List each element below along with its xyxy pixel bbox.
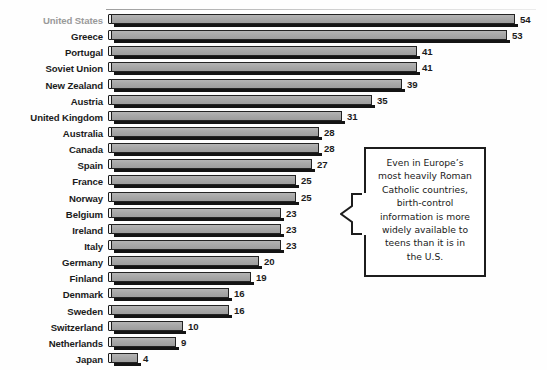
bar-value-label: 28 xyxy=(324,143,335,156)
bar-value-label: 23 xyxy=(286,240,297,253)
bar-body xyxy=(111,111,342,121)
top-edge-artifact xyxy=(106,9,536,10)
bar-shadow xyxy=(114,266,262,269)
bar-value-label: 16 xyxy=(234,288,245,301)
bar-body xyxy=(111,95,372,105)
bar-end-cap xyxy=(108,14,112,24)
bar-shadow xyxy=(114,234,284,237)
category-label: Norway xyxy=(0,192,103,205)
bar-end-cap xyxy=(108,224,112,234)
category-label: Switzerland xyxy=(0,321,103,334)
bar-shadow xyxy=(114,105,375,108)
category-label: Ireland xyxy=(0,224,103,237)
bar-value-label: 20 xyxy=(264,256,275,269)
bar-end-cap xyxy=(108,272,112,282)
bar-body xyxy=(111,305,229,315)
bar-end-cap xyxy=(108,337,112,347)
bar-value-label: 10 xyxy=(188,321,199,334)
bar-value-label: 41 xyxy=(422,62,433,75)
category-label: Germany xyxy=(0,256,103,269)
category-label: Canada xyxy=(0,143,103,156)
bar-end-cap xyxy=(108,30,112,40)
callout-line: birth-control xyxy=(372,196,478,209)
callout-line: Catholic countries, xyxy=(372,183,478,196)
bar xyxy=(108,14,517,27)
bar-value-label: 9 xyxy=(181,337,186,350)
category-label: United Kingdom xyxy=(0,111,103,124)
bar-end-cap xyxy=(108,288,112,298)
bar-value-label: 53 xyxy=(512,30,523,43)
bar xyxy=(108,240,283,253)
bar xyxy=(108,143,321,156)
bar xyxy=(108,321,185,334)
bar-body xyxy=(111,337,176,347)
bar-body xyxy=(111,79,402,89)
bar xyxy=(108,288,231,301)
bar-end-cap xyxy=(108,127,112,137)
bar-value-label: 19 xyxy=(256,272,267,285)
bar-body xyxy=(111,192,296,202)
bar-shadow xyxy=(114,169,315,172)
bar-value-label: 41 xyxy=(422,46,433,59)
category-label: Italy xyxy=(0,240,103,253)
bar-shadow xyxy=(114,298,232,301)
bar-value-label: 31 xyxy=(347,111,358,124)
bar-shadow xyxy=(114,137,322,140)
callout-line: Even in Europe’s xyxy=(372,156,478,169)
bar-end-cap xyxy=(108,256,112,266)
bar xyxy=(108,30,509,43)
bar-shadow xyxy=(114,250,284,253)
category-label: Spain xyxy=(0,159,103,172)
bar-body xyxy=(111,208,281,218)
bar-shadow xyxy=(114,202,299,205)
bar-body xyxy=(111,30,507,40)
bar-shadow xyxy=(114,72,420,75)
bar-body xyxy=(111,321,183,331)
bar-end-cap xyxy=(108,240,112,250)
bar xyxy=(108,111,344,124)
callout-line: most heavily Roman xyxy=(372,169,478,182)
bar-body xyxy=(111,159,312,169)
bar-chart: United States54Greece53Portugal41Soviet … xyxy=(0,0,547,370)
bar-end-cap xyxy=(108,175,112,185)
bar xyxy=(108,272,253,285)
category-label: Sweden xyxy=(0,305,103,318)
category-label: Greece xyxy=(0,30,103,43)
bar-value-label: 35 xyxy=(377,95,388,108)
bar-shadow xyxy=(114,347,179,350)
bar xyxy=(108,127,321,140)
bar-value-label: 27 xyxy=(317,159,328,172)
bar-value-label: 16 xyxy=(234,305,245,318)
bar-value-label: 4 xyxy=(143,353,148,366)
bar-body xyxy=(111,143,319,153)
category-label: Netherlands xyxy=(0,337,103,350)
bar xyxy=(108,353,140,366)
bar-shadow xyxy=(114,121,345,124)
bar xyxy=(108,95,374,108)
bar-shadow xyxy=(114,56,420,59)
bar-shadow xyxy=(114,40,510,43)
category-label: Denmark xyxy=(0,288,103,301)
category-label: France xyxy=(0,175,103,188)
bar-end-cap xyxy=(108,321,112,331)
bar xyxy=(108,79,404,92)
bar-end-cap xyxy=(108,192,112,202)
category-label: Australia xyxy=(0,127,103,140)
bar xyxy=(108,305,231,318)
bar-body xyxy=(111,14,515,24)
bar-end-cap xyxy=(108,305,112,315)
callout-line: teens than it is in xyxy=(372,236,478,249)
category-label: Japan xyxy=(0,353,103,366)
bar-body xyxy=(111,46,417,56)
bar xyxy=(108,159,314,172)
bar xyxy=(108,175,298,188)
bar xyxy=(108,337,178,350)
bar-value-label: 39 xyxy=(407,79,418,92)
bar xyxy=(108,208,283,221)
bar-shadow xyxy=(114,363,141,366)
bar-end-cap xyxy=(108,62,112,72)
bar-end-cap xyxy=(108,159,112,169)
bar-value-label: 25 xyxy=(301,175,312,188)
bar-shadow xyxy=(114,331,186,334)
bar-value-label: 23 xyxy=(286,224,297,237)
